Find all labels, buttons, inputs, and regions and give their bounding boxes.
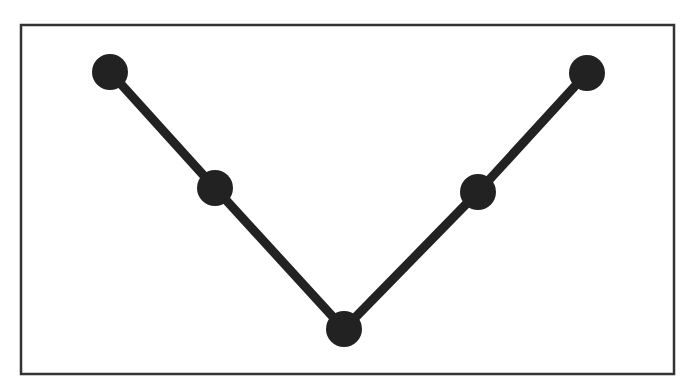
line-chart (0, 0, 697, 389)
data-point-2 (197, 170, 233, 206)
data-point-1 (92, 54, 128, 90)
data-point-3 (326, 311, 362, 347)
data-point-5 (569, 55, 605, 91)
data-point-4 (460, 174, 496, 210)
